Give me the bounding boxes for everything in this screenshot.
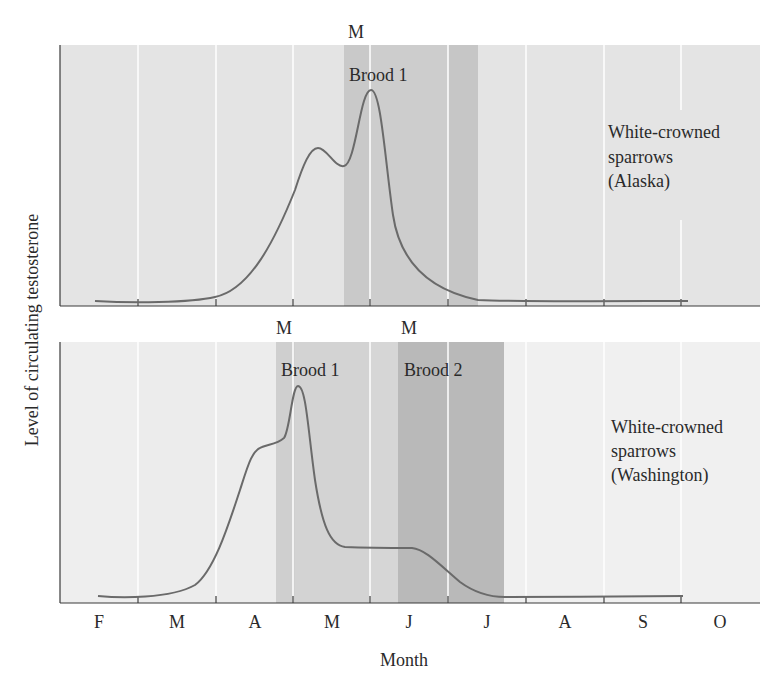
x-axis-label: Month — [380, 650, 428, 670]
y-axis-label: Level of circulating testosterone — [22, 214, 42, 446]
bottom-species-line3: (Washington) — [611, 465, 709, 486]
top-species-line3: (Alaska) — [608, 171, 670, 192]
top-species-line2: sparrows — [608, 147, 673, 167]
x-tick-apr: A — [249, 612, 262, 632]
top-mating-marker: M — [348, 22, 364, 42]
x-tick-feb: F — [94, 612, 104, 632]
top-brood1-label: Brood 1 — [349, 65, 408, 85]
top-species-line1: White-crowned — [608, 122, 720, 142]
bottom-brood2-band — [398, 342, 504, 603]
bottom-mating-marker-2: M — [401, 318, 417, 338]
bottom-species-line1: White-crowned — [611, 417, 723, 437]
top-panel: M Brood 1 White-crowned sparrows (Alaska… — [60, 22, 760, 306]
bottom-brood2-label: Brood 2 — [404, 360, 463, 380]
top-brood1-band-tail — [448, 45, 478, 306]
bottom-mating-marker-1: M — [276, 318, 292, 338]
bottom-between-band — [370, 342, 398, 603]
x-tick-mar: M — [169, 612, 185, 632]
x-tick-aug: A — [559, 612, 572, 632]
bottom-species-line2: sparrows — [611, 441, 676, 461]
bottom-pre-band — [138, 342, 276, 603]
bottom-brood1-band-inner — [295, 342, 370, 603]
x-tick-sep: S — [638, 612, 648, 632]
bottom-panel: M M Brood 1 Brood 2 White-crowned sparro… — [60, 318, 760, 603]
testosterone-chart: M Brood 1 White-crowned sparrows (Alaska… — [0, 0, 781, 686]
x-tick-labels: F M A M J J A S O — [94, 612, 727, 632]
x-tick-jun: J — [405, 612, 412, 632]
x-tick-jul: J — [483, 612, 490, 632]
x-tick-may: M — [324, 612, 340, 632]
x-tick-oct: O — [714, 612, 727, 632]
bottom-brood1-label: Brood 1 — [281, 360, 340, 380]
